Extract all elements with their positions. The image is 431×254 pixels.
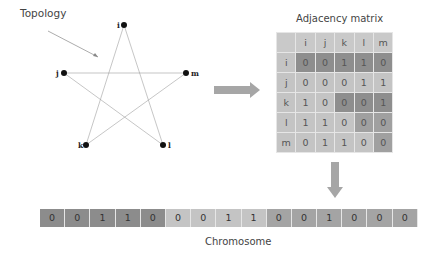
gene-cell: 0 — [367, 209, 392, 227]
node-label-l: l — [168, 141, 171, 150]
gene-cell: 0 — [191, 209, 216, 227]
node-l — [160, 142, 166, 148]
matrix-cell: 0 — [296, 73, 315, 93]
matrix-corner — [277, 33, 296, 53]
matrix-cell: 1 — [315, 113, 334, 133]
gene-cell: 1 — [116, 209, 141, 227]
matrix-cell: 0 — [354, 113, 373, 133]
matrix-cell: 0 — [335, 113, 354, 133]
matrix-cell: 0 — [373, 113, 392, 133]
gene-cell: 0 — [267, 209, 292, 227]
matrix-cell: 1 — [373, 73, 392, 93]
arrow-down-icon — [327, 162, 343, 198]
gene-cell: 0 — [292, 209, 317, 227]
matrix-cell: 1 — [373, 93, 392, 113]
matrix-cell: 0 — [335, 73, 354, 93]
topology-graph: i j m k l — [0, 0, 220, 165]
edge-i-l — [124, 25, 163, 145]
node-label-j: j — [55, 69, 59, 78]
matrix-cell: 0 — [315, 53, 334, 73]
node-m — [183, 70, 189, 76]
adjacency-matrix: i j k l m i 0 0 1 1 0 j 0 0 0 1 1 k 1 0 … — [276, 32, 393, 153]
gene-cell: 1 — [242, 209, 267, 227]
node-label-i: i — [117, 21, 120, 30]
matrix-cell: 0 — [373, 133, 392, 153]
edge-i-k — [86, 25, 124, 145]
matrix-cell: 1 — [354, 53, 373, 73]
matrix-cell: 0 — [296, 133, 315, 153]
edge-m-k — [86, 73, 186, 145]
matrix-col-header: i — [296, 33, 315, 53]
graph-edges — [64, 25, 186, 145]
gene-cell: 1 — [317, 209, 342, 227]
matrix-cell: 1 — [354, 73, 373, 93]
edge-j-l — [64, 73, 163, 145]
matrix-cell: 0 — [296, 53, 315, 73]
matrix-cell: 1 — [315, 133, 334, 153]
matrix-row-header: l — [277, 113, 296, 133]
node-j — [61, 70, 67, 76]
matrix-row-i: i 0 0 1 1 0 — [277, 53, 393, 73]
matrix-cell: 1 — [296, 93, 315, 113]
matrix-row-header: m — [277, 133, 296, 153]
gene-cell: 0 — [65, 209, 90, 227]
matrix-row-l: l 1 1 0 0 0 — [277, 113, 393, 133]
matrix-cell: 0 — [373, 53, 392, 73]
gene-cell: 0 — [141, 209, 166, 227]
matrix-row-j: j 0 0 0 1 1 — [277, 73, 393, 93]
annotation-arrow — [48, 31, 98, 57]
matrix-row-m: m 0 1 1 0 0 — [277, 133, 393, 153]
gene-cell: 0 — [166, 209, 191, 227]
node-i — [121, 22, 127, 28]
arrow-right-icon — [214, 82, 260, 98]
chromosome-label: Chromosome — [205, 236, 271, 247]
matrix-title: Adjacency matrix — [296, 13, 383, 24]
matrix-row-header: i — [277, 53, 296, 73]
matrix-cell: 1 — [296, 113, 315, 133]
matrix-cell: 0 — [354, 93, 373, 113]
matrix-cell: 0 — [315, 73, 334, 93]
node-label-k: k — [78, 141, 84, 150]
matrix-cell: 0 — [354, 133, 373, 153]
matrix-cell: 0 — [335, 93, 354, 113]
matrix-cell: 1 — [335, 53, 354, 73]
gene-cell: 0 — [40, 209, 65, 227]
gene-cell: 1 — [216, 209, 241, 227]
node-k — [83, 142, 89, 148]
gene-cell: 1 — [90, 209, 115, 227]
matrix-header-row: i j k l m — [277, 33, 393, 53]
matrix-cell: 0 — [315, 93, 334, 113]
matrix-row-k: k 1 0 0 0 1 — [277, 93, 393, 113]
gene-cell: 0 — [342, 209, 367, 227]
gene-cell: 0 — [393, 209, 418, 227]
chromosome-bar: 0 0 1 1 0 0 0 1 1 0 0 1 0 0 0 — [40, 209, 418, 227]
matrix-col-header: l — [354, 33, 373, 53]
matrix-col-header: j — [315, 33, 334, 53]
matrix-col-header: m — [373, 33, 392, 53]
node-label-m: m — [191, 69, 199, 78]
matrix-col-header: k — [335, 33, 354, 53]
matrix-row-header: j — [277, 73, 296, 93]
matrix-row-header: k — [277, 93, 296, 113]
matrix-cell: 1 — [335, 133, 354, 153]
